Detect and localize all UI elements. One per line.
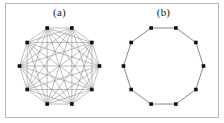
graph-edge [92, 66, 100, 90]
graph-node [149, 26, 153, 30]
figure-container: (a) (b) [0, 0, 224, 123]
panel-a-graph [6, 16, 113, 116]
graph-edge [20, 66, 28, 90]
graph-edge [20, 42, 92, 66]
graph-edge [176, 28, 196, 43]
graph-edge [124, 42, 132, 66]
graph-node [149, 102, 153, 106]
graph-node [45, 26, 49, 30]
graph-node [194, 88, 198, 92]
graph-edge [196, 42, 204, 66]
graph-edge [27, 42, 47, 104]
graph-node [25, 88, 29, 92]
graph-edge [72, 28, 92, 43]
graph-node [129, 41, 133, 45]
graph-node [129, 88, 133, 92]
graph-edge [27, 42, 72, 104]
graph-edge [131, 90, 151, 105]
graph-node [98, 64, 102, 68]
graph-node [45, 102, 49, 106]
panel-a-edges [20, 28, 100, 104]
graph-edge [27, 90, 47, 105]
panel-b: (b) [110, 4, 217, 119]
graph-node [90, 88, 94, 92]
graph-node [25, 41, 29, 45]
graph-edge [124, 66, 132, 90]
graph-edge [27, 28, 72, 43]
graph-node [70, 102, 74, 106]
graph-edge [47, 90, 92, 105]
graph-node [90, 41, 94, 45]
graph-node [174, 26, 178, 30]
graph-edge [27, 42, 99, 66]
figure-frame: (a) (b) [5, 3, 219, 118]
panel-b-nodes [122, 26, 206, 106]
graph-node [202, 64, 206, 68]
panel-b-graph [110, 16, 217, 116]
panel-a: (a) [6, 4, 113, 119]
graph-edge [27, 28, 47, 43]
graph-edge [20, 66, 92, 90]
graph-edge [20, 66, 48, 104]
graph-node [194, 41, 198, 45]
panel-b-edges [124, 28, 204, 104]
graph-node [174, 102, 178, 106]
graph-edge [27, 90, 72, 105]
graph-edge [131, 28, 151, 43]
graph-node [70, 26, 74, 30]
graph-edge [20, 42, 28, 66]
graph-edge [176, 90, 196, 105]
graph-node [18, 64, 22, 68]
graph-edge [196, 66, 204, 90]
graph-edge [72, 90, 92, 105]
graph-node [122, 64, 126, 68]
graph-edge [92, 42, 100, 66]
graph-edge [27, 66, 99, 90]
